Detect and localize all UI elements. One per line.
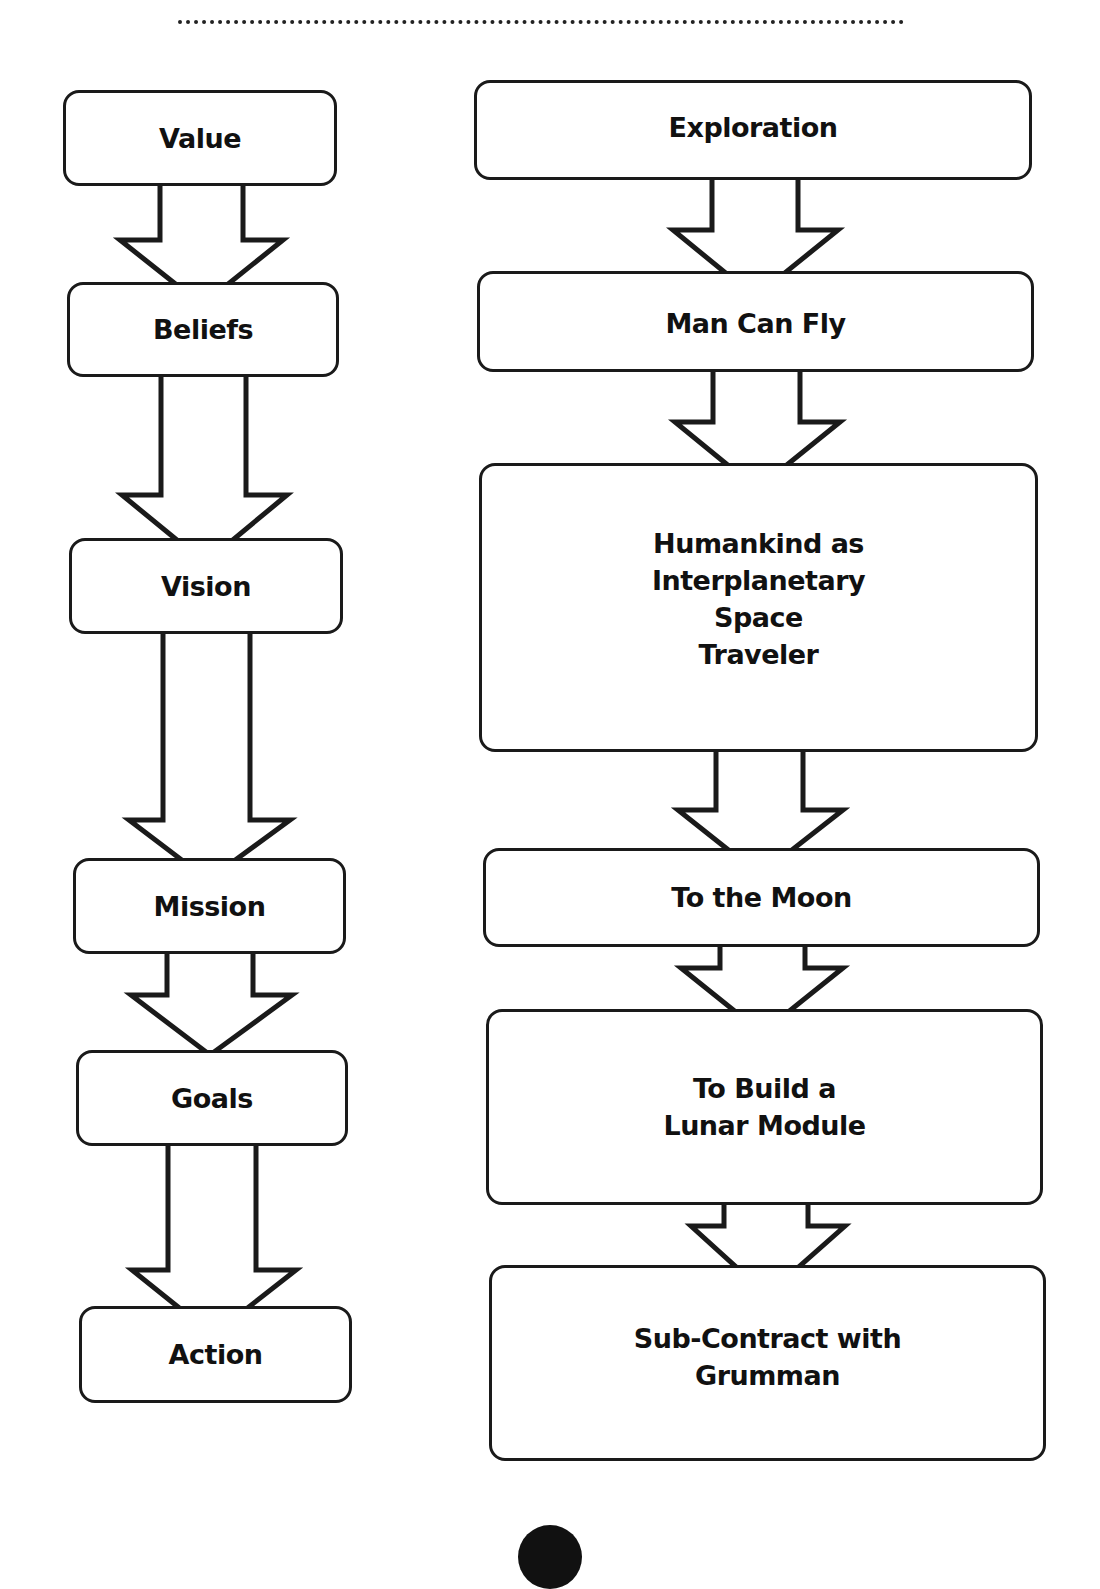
node-label: Goals <box>171 1080 253 1117</box>
node-label: Exploration <box>669 109 838 146</box>
node-action: Action <box>79 1306 352 1403</box>
node-label: Mission <box>154 888 266 925</box>
arrow-down-icon <box>122 375 287 563</box>
arrow-down-icon <box>129 632 290 880</box>
node-value: Value <box>63 90 337 186</box>
node-label: Action <box>169 1336 263 1373</box>
node-exploration: Exploration <box>474 80 1032 180</box>
node-label: To Build a Lunar Module <box>663 1070 865 1144</box>
node-man-can-fly: Man Can Fly <box>477 271 1034 372</box>
node-to-the-moon: To the Moon <box>483 848 1040 947</box>
node-label: Sub-Contract with Grumman <box>634 1320 901 1394</box>
node-humankind-space-traveler: Humankind as Interplanetary Space Travel… <box>479 463 1038 752</box>
node-subcontract-grumman: Sub-Contract with Grumman <box>489 1265 1046 1461</box>
node-label: Beliefs <box>153 311 253 348</box>
node-label: Value <box>159 120 241 157</box>
page-number-marker <box>518 1525 582 1589</box>
arrow-down-icon <box>131 952 292 1055</box>
node-mission: Mission <box>73 858 346 954</box>
node-label: Humankind as Interplanetary Space Travel… <box>652 525 865 673</box>
node-label: Man Can Fly <box>665 305 845 342</box>
node-label: To the Moon <box>671 879 851 916</box>
node-vision: Vision <box>69 538 343 634</box>
node-label: Vision <box>161 568 251 605</box>
node-beliefs: Beliefs <box>67 282 339 377</box>
node-build-lunar-module: To Build a Lunar Module <box>486 1009 1043 1205</box>
node-goals: Goals <box>76 1050 348 1146</box>
